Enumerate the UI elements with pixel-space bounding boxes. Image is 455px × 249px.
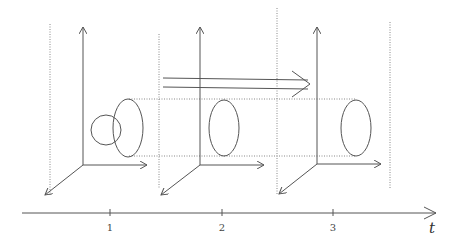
coordinate-frame-1 bbox=[45, 27, 147, 195]
time-axis: 1 2 3 t bbox=[22, 207, 436, 237]
progress-arrow bbox=[163, 71, 310, 97]
coordinate-frame-3 bbox=[279, 27, 381, 194]
ellipse-3 bbox=[341, 100, 371, 156]
tick-label-1: 1 bbox=[107, 222, 113, 233]
time-axis-label: t bbox=[429, 219, 436, 237]
ellipse-2 bbox=[209, 100, 239, 156]
linked-circle bbox=[91, 115, 121, 145]
tick-label-3: 3 bbox=[330, 222, 336, 233]
ellipse-1 bbox=[113, 99, 143, 157]
dotted-tube bbox=[129, 99, 356, 156]
time-evolution-diagram: 1 2 3 t bbox=[0, 0, 455, 249]
coordinate-frame-2 bbox=[161, 27, 264, 195]
tick-label-2: 2 bbox=[219, 222, 225, 233]
